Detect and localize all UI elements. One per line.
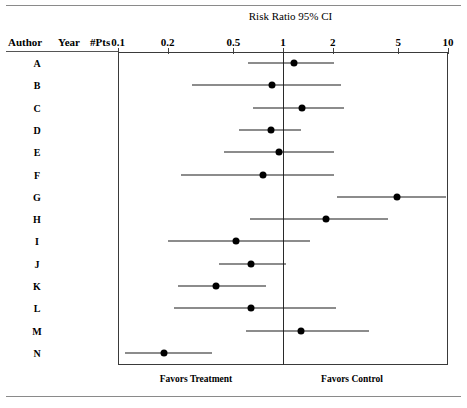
axis-tick-label-5: 5 [396, 36, 402, 48]
point-estimate-K [212, 283, 219, 290]
ci-line-N [125, 352, 212, 353]
study-label-I: I [35, 236, 39, 247]
study-label-M: M [32, 325, 41, 336]
point-estimate-I [233, 238, 240, 245]
axis-tick-label-1: 1 [280, 36, 286, 48]
point-estimate-N [160, 349, 167, 356]
point-estimate-F [260, 171, 267, 178]
axis-tick-label-10: 10 [443, 36, 454, 48]
study-label-N: N [33, 347, 40, 358]
ci-line-B [192, 85, 342, 86]
ci-line-L [174, 308, 336, 309]
axis-tick-mark-10 [448, 48, 449, 54]
top-divider-rule [6, 5, 461, 6]
point-estimate-E [275, 149, 282, 156]
point-estimate-H [322, 216, 329, 223]
ci-line-H [250, 219, 388, 220]
axis-tick-label-0.5: 0.5 [226, 36, 240, 48]
point-estimate-A [290, 60, 297, 67]
study-label-L: L [34, 303, 41, 314]
null-effect-line [283, 52, 284, 365]
point-estimate-M [297, 327, 304, 334]
study-label-D: D [33, 124, 40, 135]
study-label-G: G [33, 191, 41, 202]
study-label-H: H [33, 214, 41, 225]
header-underline [6, 51, 118, 52]
favors-control-label: Favors Control [321, 374, 383, 384]
study-label-A: A [33, 58, 40, 69]
ci-line-K [178, 286, 266, 287]
column-header-pts: #Pts [90, 36, 110, 48]
point-estimate-L [248, 305, 255, 312]
ci-line-G [337, 196, 446, 197]
point-estimate-J [248, 260, 255, 267]
favors-treatment-label: Favors Treatment [160, 374, 233, 384]
axis-tick-label-0.1: 0.1 [111, 36, 125, 48]
point-estimate-C [298, 104, 305, 111]
study-label-C: C [33, 102, 40, 113]
study-label-K: K [33, 281, 41, 292]
study-label-F: F [34, 169, 40, 180]
study-label-E: E [34, 147, 41, 158]
study-label-B: B [34, 80, 41, 91]
axis-tick-label-0.2: 0.2 [161, 36, 175, 48]
point-estimate-D [267, 126, 274, 133]
forest-plot-figure: Risk Ratio 95% CI Author Year #Pts 0.10.… [0, 0, 467, 408]
point-estimate-G [393, 193, 400, 200]
column-header-author: Author [8, 36, 42, 48]
page-title: Risk Ratio 95% CI [218, 10, 363, 22]
point-estimate-B [269, 82, 276, 89]
ci-line-M [246, 330, 368, 331]
column-header-year: Year [58, 36, 80, 48]
bottom-divider-rule [6, 396, 461, 397]
axis-tick-label-2: 2 [330, 36, 336, 48]
study-label-J: J [35, 258, 40, 269]
ci-line-F [181, 174, 334, 175]
